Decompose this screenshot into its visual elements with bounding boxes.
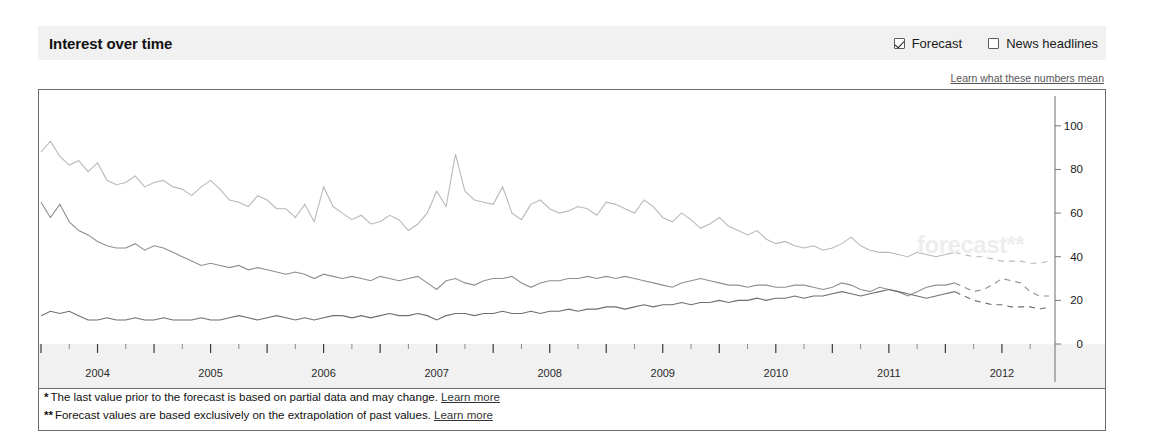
line-series-3 — [41, 289, 955, 320]
x-axis-tick-label: 2004 — [85, 367, 109, 379]
line-series-1 — [41, 141, 955, 257]
header-controls: Forecast News headlines — [868, 36, 1098, 51]
x-axis-labels: 200420052006200720082009201020112012 — [39, 367, 1105, 385]
x-axis-tick-label: 2011 — [877, 367, 901, 379]
footnote-2-marker: ** — [44, 409, 53, 421]
forecast-checkbox-label: Forecast — [912, 36, 963, 51]
y-axis-tick-label: 40 — [1070, 251, 1083, 263]
y-axis-tick-label: 100 — [1064, 120, 1083, 132]
y-axis-tick-label: 60 — [1070, 207, 1083, 219]
y-axis-tick-label: 80 — [1070, 163, 1083, 175]
news-headlines-checkbox-group[interactable]: News headlines — [988, 36, 1098, 51]
footnote-1-marker: * — [44, 391, 48, 403]
forecast-checkbox[interactable] — [894, 38, 905, 49]
footnote-1-learn-more-link[interactable]: Learn more — [441, 391, 500, 403]
x-axis-tick-label: 2010 — [764, 367, 788, 379]
forecast-line-series-2 — [955, 279, 1049, 296]
panel-header: Interest over time Forecast News headlin… — [38, 26, 1106, 60]
footnotes: *The last value prior to the forecast is… — [38, 389, 1106, 431]
footnote-2-text: Forecast values are based exclusively on… — [55, 409, 431, 421]
news-headlines-checkbox-label: News headlines — [1006, 36, 1098, 51]
x-axis-tick-label: 2008 — [537, 367, 561, 379]
plot-area: 020406080100 200420052006200720082009201… — [39, 90, 1105, 388]
footnote-1-text: The last value prior to the forecast is … — [50, 391, 437, 403]
x-axis-tick-label: 2007 — [424, 367, 448, 379]
footnote-2: **Forecast values are based exclusively … — [44, 409, 493, 421]
x-axis-tick-label: 2012 — [990, 367, 1014, 379]
chart-frame: 020406080100 200420052006200720082009201… — [38, 89, 1106, 389]
x-axis-tick-label: 2009 — [651, 367, 675, 379]
x-axis-tick-label: 2005 — [198, 367, 222, 379]
y-axis-labels: 020406080100 — [1045, 90, 1105, 388]
forecast-checkbox-group[interactable]: Forecast — [894, 36, 963, 51]
x-axis-tick-label: 2006 — [311, 367, 335, 379]
trends-interest-over-time-panel: Interest over time Forecast News headlin… — [0, 0, 1161, 437]
footnote-1: *The last value prior to the forecast is… — [44, 391, 500, 403]
learn-what-these-numbers-mean-link[interactable]: Learn what these numbers mean — [950, 72, 1104, 84]
footnote-2-learn-more-link[interactable]: Learn more — [434, 409, 493, 421]
learn-link-row: Learn what these numbers mean — [38, 62, 1106, 86]
line-series-2 — [41, 202, 955, 296]
y-axis-tick-label: 0 — [1077, 338, 1083, 350]
y-axis-tick-label: 20 — [1070, 294, 1083, 306]
page-title: Interest over time — [49, 35, 172, 52]
forecast-watermark: forecast** — [917, 231, 1024, 259]
news-headlines-checkbox[interactable] — [988, 38, 999, 49]
